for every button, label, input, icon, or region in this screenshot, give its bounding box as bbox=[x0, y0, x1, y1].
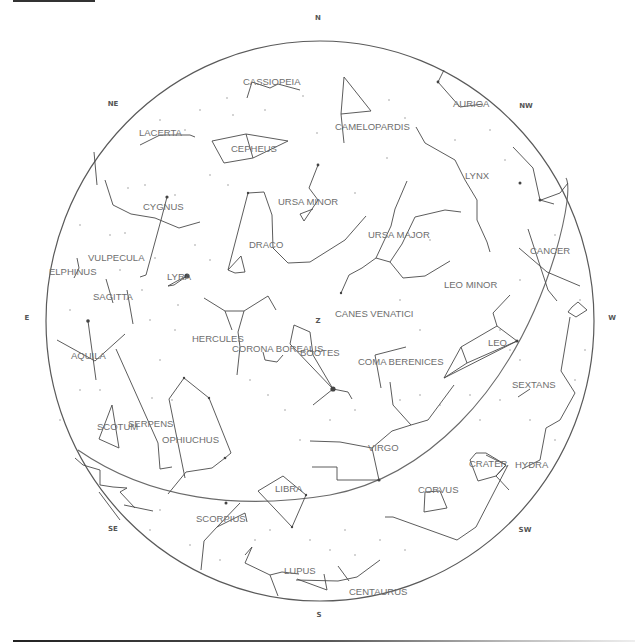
direction-ne: NE bbox=[108, 100, 119, 108]
label-serpens: SERPENS bbox=[128, 418, 173, 429]
label-sextans: SEXTANS bbox=[512, 379, 556, 390]
direction-n: N bbox=[315, 14, 321, 22]
label-scorpius: SCORPIUS bbox=[196, 513, 246, 524]
direction-se: SE bbox=[108, 525, 118, 533]
label-auriga: AURIGA bbox=[453, 98, 490, 109]
label-corvus: CORVUS bbox=[418, 484, 458, 495]
label-centaurus: CENTAURUS bbox=[349, 586, 407, 597]
label-coma-berenices: COMA BERENICES bbox=[358, 356, 444, 367]
label-crater: CRATER bbox=[469, 458, 507, 469]
label-cepheus: CEPHEUS bbox=[231, 143, 277, 154]
direction-e: E bbox=[25, 314, 30, 322]
direction-nw: NW bbox=[519, 102, 533, 110]
label-sagitta: SAGITTA bbox=[93, 291, 134, 302]
label-lacerta: LACERTA bbox=[139, 127, 183, 138]
label-lynx: LYNX bbox=[465, 170, 490, 181]
label-camelopardis: CAMELOPARDIS bbox=[335, 121, 410, 132]
sky-chart[interactable]: N NE NW E W SE SW S Z CASSIOPEIA AURIGA … bbox=[0, 0, 635, 642]
label-ophiuchus: OPHIUCHUS bbox=[162, 434, 219, 445]
label-lupus: LUPUS bbox=[284, 565, 316, 576]
label-delphinus: ELPHINUS bbox=[49, 266, 97, 277]
direction-s: S bbox=[316, 611, 321, 619]
label-cancer: CANCER bbox=[530, 245, 570, 256]
label-ursa-major: URSA MAJOR bbox=[368, 229, 430, 240]
direction-sw: SW bbox=[519, 526, 532, 534]
direction-labels: N NE NW E W SE SW S Z bbox=[25, 14, 617, 619]
label-virgo: VIRGO bbox=[368, 442, 399, 453]
label-leo-minor: LEO MINOR bbox=[444, 279, 497, 290]
direction-w: W bbox=[608, 314, 616, 322]
label-leo: LEO bbox=[488, 337, 507, 348]
label-cygnus: CYGNUS bbox=[143, 201, 184, 212]
label-lyra: LYRA bbox=[167, 271, 192, 282]
label-draco: DRACO bbox=[249, 239, 283, 250]
constellation-lines bbox=[57, 70, 587, 596]
label-hydra: HYDRA bbox=[515, 459, 549, 470]
label-aquila: AQUILA bbox=[71, 350, 107, 361]
label-canes-venatici: CANES VENATICI bbox=[335, 308, 413, 319]
label-vulpecula: VULPECULA bbox=[88, 252, 145, 263]
zenith-marker: Z bbox=[315, 317, 320, 325]
label-cassiopeia: CASSIOPEIA bbox=[243, 76, 301, 87]
constellation-labels: CASSIOPEIA AURIGA CAMELOPARDIS LACERTA C… bbox=[49, 76, 570, 597]
label-bootes: BOOTES bbox=[300, 347, 340, 358]
label-libra: LIBRA bbox=[275, 483, 303, 494]
faint-stars bbox=[59, 95, 585, 560]
label-ursa-minor: URSA MINOR bbox=[278, 196, 338, 207]
